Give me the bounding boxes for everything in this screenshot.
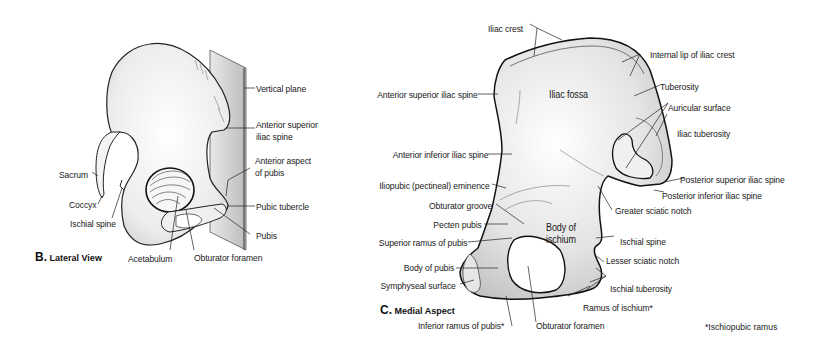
label-ischial-spine-b: Ischial spine bbox=[70, 218, 116, 229]
caption-lateral-view: B. Lateral View bbox=[35, 250, 102, 264]
label-pecten-pubis: Pecten pubis bbox=[434, 219, 482, 230]
caption-text-c: Medial Aspect bbox=[395, 306, 455, 316]
label-asis-line1: Anterior superior bbox=[256, 119, 318, 130]
label-tuberosity: Tuberosity bbox=[660, 81, 699, 92]
caption-letter-b: B. bbox=[35, 250, 47, 264]
footnote-ischiopubic-ramus: *Ischiopubic ramus bbox=[705, 321, 777, 332]
label-aiis: Anterior inferior iliac spine bbox=[392, 149, 488, 160]
label-acetabulum: Acetabulum bbox=[128, 253, 172, 264]
label-body-of-pubis: Body of pubis bbox=[403, 262, 454, 273]
label-ischial-tuberosity: Ischial tuberosity bbox=[610, 283, 672, 294]
label-inferior-ramus-pubis: Inferior ramus of pubis* bbox=[418, 320, 504, 331]
label-piis: Posterior inferior iliac spine bbox=[662, 190, 762, 201]
label-body-of-ischium-line2: ischium bbox=[546, 234, 576, 245]
label-iliopubic-eminence: Iliopubic (pectineal) eminence bbox=[380, 180, 490, 191]
label-sacrum: Sacrum bbox=[59, 169, 88, 180]
label-obturator-foramen-c: Obturator foramen bbox=[536, 320, 604, 331]
label-obturator-groove: Obturator groove bbox=[429, 200, 492, 211]
label-symphyseal-surface: Symphyseal surface bbox=[381, 280, 456, 291]
caption-text-b: Lateral View bbox=[50, 253, 102, 263]
label-iliac-crest: Iliac crest bbox=[488, 23, 523, 34]
label-asis-line2: iliac spine bbox=[256, 131, 293, 142]
label-ramus-of-ischium: Ramus of ischium* bbox=[583, 302, 653, 313]
label-auricular-surface: Auricular surface bbox=[668, 102, 731, 113]
label-anterior-aspect-line2: of pubis bbox=[255, 167, 284, 178]
label-coccyx: Coccyx bbox=[69, 199, 96, 210]
label-iliac-fossa: Iliac fossa bbox=[549, 89, 588, 100]
label-psis: Posterior superior iliac spine bbox=[680, 174, 785, 185]
label-vertical-plane: Vertical plane bbox=[256, 83, 306, 94]
label-internal-lip: Internal lip of iliac crest bbox=[650, 49, 735, 60]
medial-aspect-figure bbox=[456, 24, 684, 326]
label-asis-c: Anterior superior iliac spine bbox=[377, 89, 478, 100]
label-iliac-tuberosity: Iliac tuberosity bbox=[677, 128, 730, 139]
label-obturator-foramen-b: Obturator foramen bbox=[194, 252, 262, 263]
label-pubic-tubercle: Pubic tubercle bbox=[256, 201, 309, 212]
label-body-of-ischium-line1: Body of bbox=[546, 222, 576, 233]
label-ischial-spine-c: Ischial spine bbox=[620, 236, 666, 247]
label-superior-ramus-pubis: Superior ramus of pubis bbox=[379, 237, 468, 248]
label-lesser-sciatic-notch: Lesser sciatic notch bbox=[606, 255, 679, 266]
label-anterior-aspect-line1: Anterior aspect bbox=[255, 155, 311, 166]
caption-medial-aspect: C. Medial Aspect bbox=[380, 303, 455, 317]
caption-letter-c: C. bbox=[380, 303, 392, 317]
label-pubis: Pubis bbox=[256, 230, 277, 241]
label-greater-sciatic-notch: Greater sciatic notch bbox=[615, 205, 692, 216]
lateral-view-figure bbox=[92, 43, 255, 250]
